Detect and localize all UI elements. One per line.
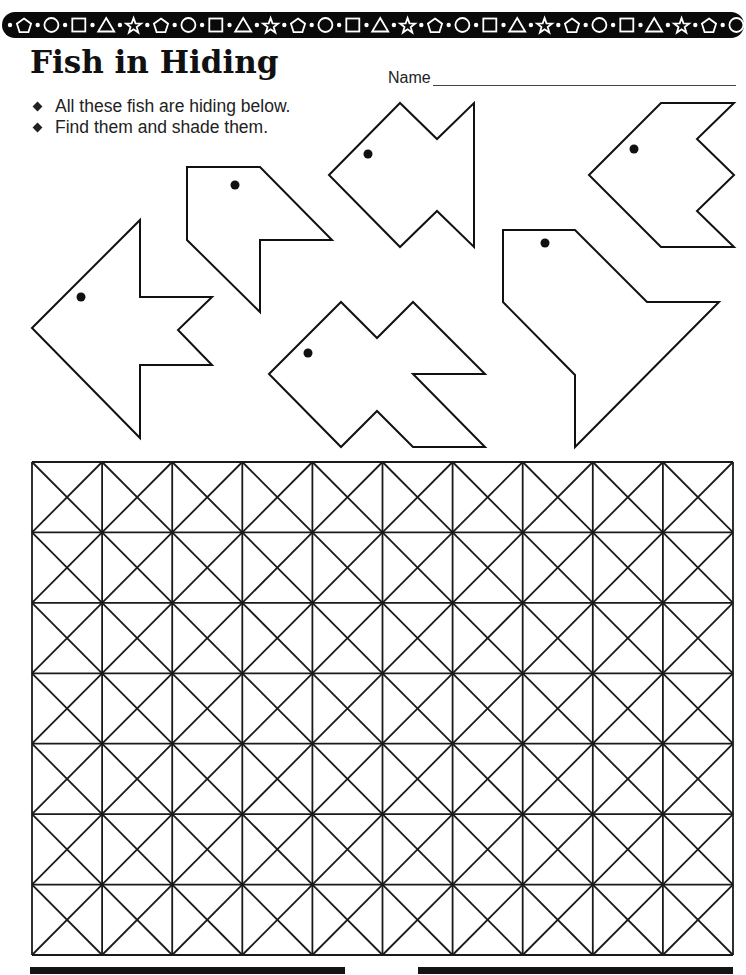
grid-cell[interactable] bbox=[523, 462, 593, 532]
fish-6 bbox=[503, 230, 719, 447]
grid-cell[interactable] bbox=[593, 462, 663, 532]
fish-eye-icon bbox=[630, 145, 639, 154]
worksheet-artwork bbox=[0, 0, 746, 975]
grid-cell[interactable] bbox=[663, 532, 733, 602]
grid-cell[interactable] bbox=[32, 744, 102, 814]
fish-1 bbox=[32, 220, 212, 438]
grid-cell[interactable] bbox=[312, 462, 382, 532]
grid-cell[interactable] bbox=[663, 603, 733, 673]
grid-cell[interactable] bbox=[663, 814, 733, 884]
grid-cell[interactable] bbox=[102, 814, 172, 884]
fish-5 bbox=[269, 302, 485, 447]
grid-cell[interactable] bbox=[593, 532, 663, 602]
grid-cell[interactable] bbox=[102, 462, 172, 532]
grid-cell[interactable] bbox=[312, 603, 382, 673]
grid-cell[interactable] bbox=[663, 885, 733, 955]
fish-outline bbox=[503, 230, 719, 447]
grid-cell[interactable] bbox=[453, 744, 523, 814]
grid-cell[interactable] bbox=[172, 603, 242, 673]
grid-cell[interactable] bbox=[663, 462, 733, 532]
grid-cell[interactable] bbox=[242, 814, 312, 884]
grid-cell[interactable] bbox=[453, 462, 523, 532]
grid-cell[interactable] bbox=[593, 603, 663, 673]
grid-cell[interactable] bbox=[383, 532, 453, 602]
grid-cell[interactable] bbox=[32, 462, 102, 532]
grid-cell[interactable] bbox=[593, 744, 663, 814]
grid-cell[interactable] bbox=[383, 744, 453, 814]
grid-cell[interactable] bbox=[523, 814, 593, 884]
grid-cell[interactable] bbox=[312, 673, 382, 743]
grid-cell[interactable] bbox=[102, 885, 172, 955]
grid-cell[interactable] bbox=[312, 885, 382, 955]
grid-cell[interactable] bbox=[453, 532, 523, 602]
fish-outline bbox=[32, 220, 212, 438]
grid-cell[interactable] bbox=[102, 532, 172, 602]
grid-cell[interactable] bbox=[523, 744, 593, 814]
grid-cell[interactable] bbox=[172, 814, 242, 884]
grid-cell[interactable] bbox=[453, 814, 523, 884]
grid-cell[interactable] bbox=[172, 673, 242, 743]
grid-cell[interactable] bbox=[32, 532, 102, 602]
grid-cell[interactable] bbox=[453, 673, 523, 743]
grid-cell[interactable] bbox=[32, 885, 102, 955]
triangle-grid[interactable] bbox=[32, 462, 733, 955]
grid-cell[interactable] bbox=[523, 673, 593, 743]
fish-shapes bbox=[32, 103, 734, 447]
grid-cell[interactable] bbox=[663, 673, 733, 743]
grid-cell[interactable] bbox=[312, 744, 382, 814]
grid-cell[interactable] bbox=[383, 814, 453, 884]
grid-cell[interactable] bbox=[453, 603, 523, 673]
fish-eye-icon bbox=[231, 181, 240, 190]
grid-cell[interactable] bbox=[32, 603, 102, 673]
grid-cell[interactable] bbox=[172, 462, 242, 532]
grid-cell[interactable] bbox=[102, 673, 172, 743]
grid-cell[interactable] bbox=[102, 744, 172, 814]
fish-eye-icon bbox=[364, 150, 373, 159]
grid-cell[interactable] bbox=[242, 744, 312, 814]
grid-cell[interactable] bbox=[383, 673, 453, 743]
grid-cell[interactable] bbox=[242, 462, 312, 532]
fish-outline bbox=[589, 103, 734, 247]
grid-cell[interactable] bbox=[172, 744, 242, 814]
fish-3 bbox=[329, 103, 474, 247]
grid-cell[interactable] bbox=[32, 814, 102, 884]
grid-cell[interactable] bbox=[242, 603, 312, 673]
fish-outline bbox=[269, 302, 485, 447]
grid-cell[interactable] bbox=[32, 673, 102, 743]
grid-cell[interactable] bbox=[593, 885, 663, 955]
grid-cell[interactable] bbox=[242, 885, 312, 955]
grid-cell[interactable] bbox=[523, 885, 593, 955]
grid-cell[interactable] bbox=[312, 532, 382, 602]
grid-cell[interactable] bbox=[523, 603, 593, 673]
grid-cell[interactable] bbox=[593, 673, 663, 743]
grid-cell[interactable] bbox=[383, 885, 453, 955]
fish-eye-icon bbox=[77, 293, 86, 302]
grid-cell[interactable] bbox=[242, 673, 312, 743]
fish-4 bbox=[589, 103, 734, 247]
grid-cell[interactable] bbox=[383, 603, 453, 673]
grid-cell[interactable] bbox=[593, 814, 663, 884]
fish-eye-icon bbox=[304, 349, 313, 358]
grid-cell[interactable] bbox=[383, 462, 453, 532]
fish-eye-icon bbox=[541, 239, 550, 248]
grid-cell[interactable] bbox=[453, 885, 523, 955]
grid-cell[interactable] bbox=[172, 885, 242, 955]
footer-rule bbox=[30, 967, 345, 974]
fish-2 bbox=[187, 167, 332, 312]
grid-cell[interactable] bbox=[102, 603, 172, 673]
grid-cell[interactable] bbox=[312, 814, 382, 884]
grid-cell[interactable] bbox=[663, 744, 733, 814]
grid-cell[interactable] bbox=[523, 532, 593, 602]
grid-cell[interactable] bbox=[242, 532, 312, 602]
fish-outline bbox=[187, 167, 332, 312]
grid-cell[interactable] bbox=[172, 532, 242, 602]
footer-rule bbox=[418, 967, 733, 974]
fish-outline bbox=[329, 103, 474, 247]
